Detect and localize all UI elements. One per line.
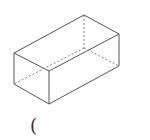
edge-bottom-right <box>49 66 119 104</box>
hidden-edge-back-right <box>84 48 119 66</box>
edge-bottom-left <box>14 84 49 104</box>
edge-top-left <box>14 15 84 53</box>
caption-parenthesis: ( <box>30 116 37 136</box>
edge-top-right <box>84 15 119 34</box>
cuboid-figure <box>0 0 150 140</box>
visible-edges <box>14 15 119 104</box>
